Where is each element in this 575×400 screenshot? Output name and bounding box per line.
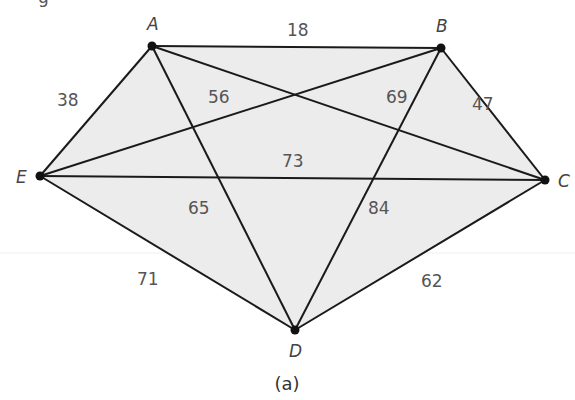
edge-weight-bc: 47: [472, 94, 494, 114]
edge-weight-ae: 38: [57, 90, 79, 110]
vertex-b-dot: [437, 44, 446, 53]
vertex-label-d: D: [289, 341, 302, 361]
edge-weight-cd: 62: [421, 271, 443, 291]
vertex-label-e: E: [16, 167, 27, 187]
vertex-a-dot: [148, 42, 157, 51]
figure-caption: (a): [274, 373, 299, 394]
vertex-label-c: C: [558, 171, 570, 191]
vertex-d-dot: [291, 326, 300, 335]
edge-weight-de: 71: [137, 269, 159, 289]
edge-weight-ad: 65: [188, 198, 210, 218]
edge-weight-ce: 73: [282, 151, 304, 171]
vertex-label-a: A: [146, 14, 159, 34]
weighted-graph-diagram: g 18696538478456627371 ABCDE (a): [0, 0, 575, 400]
edge-weight-be: 56: [208, 87, 230, 107]
vertex-e-dot: [36, 172, 45, 181]
edge-weight-ac: 69: [386, 87, 408, 107]
cut-off-heading-fragment: g: [38, 0, 49, 7]
edge-weight-bd: 84: [368, 198, 390, 218]
edge-weight-ab: 18: [287, 20, 309, 40]
vertex-label-b: B: [436, 16, 448, 36]
vertex-c-dot: [541, 176, 550, 185]
